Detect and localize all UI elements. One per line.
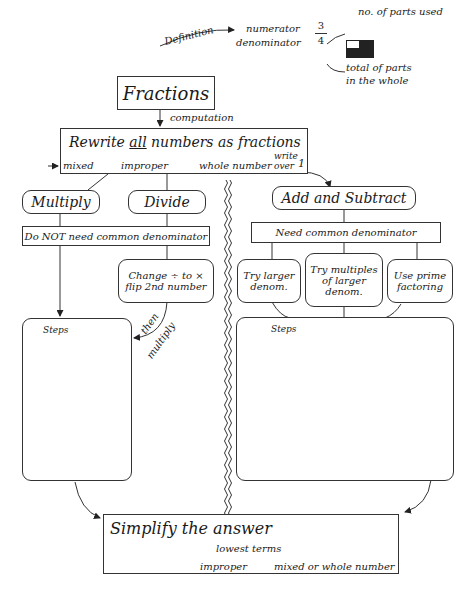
multiply-node: Multiply bbox=[22, 190, 100, 214]
whole-number-label: whole number bbox=[199, 160, 272, 171]
try-larger-node: Try larger denom. bbox=[237, 259, 301, 303]
opt1-line1: Try larger bbox=[243, 270, 294, 281]
opt3-line1: Use prime bbox=[394, 270, 446, 281]
fraction-denominator: 4 bbox=[316, 35, 326, 46]
lowest-terms-label: lowest terms bbox=[216, 543, 281, 554]
simplify-improper-label: improper bbox=[200, 561, 247, 572]
over-label: over bbox=[274, 161, 294, 171]
opt2-line2: of larger bbox=[322, 275, 366, 286]
multiply-label: Multiply bbox=[31, 194, 90, 210]
rewrite-title-all: all bbox=[129, 134, 146, 150]
total-parts-label-1: total of parts bbox=[346, 62, 412, 73]
add-subtract-label: Add and Subtract bbox=[282, 190, 407, 206]
rewrite-title-pre: Rewrite bbox=[69, 134, 129, 150]
fraction-grid-icon bbox=[346, 40, 374, 58]
total-parts-label-2: in the whole bbox=[346, 75, 409, 86]
mixed-or-whole-label: mixed or whole number bbox=[274, 561, 395, 572]
fraction-numerator: 3 bbox=[316, 20, 326, 31]
prime-factoring-node: Use prime factoring bbox=[387, 259, 453, 303]
no-common-denominator-node: Do NOT need common denominator bbox=[22, 226, 210, 246]
write-label: write bbox=[274, 151, 298, 161]
try-multiples-node: Try multiples of larger denom. bbox=[305, 253, 383, 307]
left-steps-box: Steps bbox=[22, 318, 132, 481]
fractions-node: Fractions bbox=[117, 76, 215, 110]
simplify-title: Simplify the answer bbox=[110, 519, 272, 538]
simplify-node: Simplify the answer lowest terms imprope… bbox=[103, 514, 399, 574]
computation-label: computation bbox=[170, 112, 234, 123]
right-steps-box: Steps bbox=[236, 317, 454, 481]
need-common-denominator-node: Need common denominator bbox=[251, 222, 441, 243]
opt3-line2: factoring bbox=[397, 281, 443, 292]
rewrite-title-post: numbers as fractions bbox=[147, 134, 301, 150]
one-label: 1 bbox=[298, 157, 305, 170]
divide-label: Divide bbox=[144, 194, 189, 210]
opt2-line3: denom. bbox=[325, 286, 362, 297]
no-common-label: Do NOT need common denominator bbox=[25, 231, 208, 242]
wavy-divider bbox=[225, 180, 228, 552]
improper-label: improper bbox=[121, 160, 168, 171]
left-steps-label: Steps bbox=[43, 325, 69, 335]
parts-used-label: no. of parts used bbox=[358, 6, 443, 17]
flip-label: flip 2nd number bbox=[125, 281, 206, 292]
fraction-bar bbox=[315, 33, 327, 34]
add-subtract-node: Add and Subtract bbox=[272, 186, 416, 210]
change-label: Change ÷ to × bbox=[128, 270, 203, 281]
opt1-line2: denom. bbox=[250, 281, 287, 292]
change-flip-node: Change ÷ to × flip 2nd number bbox=[118, 259, 214, 303]
numerator-label: numerator bbox=[246, 23, 300, 34]
divide-node: Divide bbox=[128, 190, 206, 214]
denominator-label: denominator bbox=[236, 37, 301, 48]
opt2-line1: Try multiples bbox=[310, 264, 377, 275]
rewrite-node: Rewrite all numbers as fractions mixed i… bbox=[60, 128, 308, 174]
mixed-label: mixed bbox=[63, 160, 94, 171]
right-steps-label: Steps bbox=[271, 324, 297, 334]
fractions-title: Fractions bbox=[123, 83, 210, 104]
need-common-label: Need common denominator bbox=[275, 227, 416, 238]
